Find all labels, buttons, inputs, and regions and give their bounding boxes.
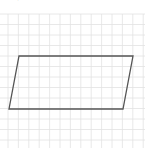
parallelogram [9, 56, 133, 109]
grid-lines [0, 14, 145, 148]
graph-paper-diagram [0, 0, 145, 148]
